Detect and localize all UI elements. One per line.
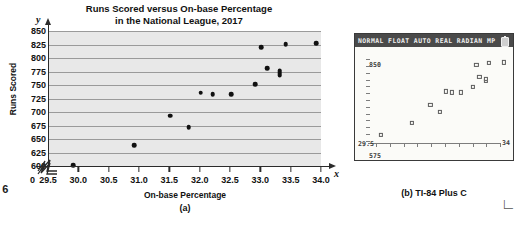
calculator-status-text: NORMAL FLOAT AUTO REAL RADIAN MP bbox=[358, 37, 496, 45]
data-point bbox=[265, 66, 270, 71]
calculator-y-tick bbox=[366, 134, 370, 135]
calculator-y-tick bbox=[366, 141, 370, 142]
y-tick-label: 825 bbox=[2, 40, 46, 50]
y-axis-title: Runs Scored bbox=[8, 53, 18, 125]
x-axis-line bbox=[36, 166, 330, 167]
calculator-data-point bbox=[502, 60, 506, 64]
calculator-screen: NORMAL FLOAT AUTO REAL RADIAN MP 850 29.… bbox=[354, 33, 514, 161]
page-corner-mark: ∟ bbox=[501, 196, 516, 213]
x-tick bbox=[169, 166, 170, 172]
calculator-status-bar: NORMAL FLOAT AUTO REAL RADIAN MP bbox=[355, 34, 513, 47]
calculator-data-point bbox=[477, 75, 481, 79]
gridline bbox=[49, 85, 321, 86]
data-point bbox=[132, 143, 137, 148]
calculator-data-canvas bbox=[369, 55, 507, 143]
y-tick-label: 625 bbox=[2, 148, 46, 158]
gridline bbox=[49, 126, 321, 127]
calculator-y-tick bbox=[366, 80, 370, 81]
data-point bbox=[168, 113, 173, 118]
calculator-data-point bbox=[483, 77, 487, 81]
calculator-data-point bbox=[474, 63, 478, 67]
data-point bbox=[314, 41, 319, 46]
gridline bbox=[49, 45, 321, 46]
calculator-x-axis bbox=[368, 143, 501, 144]
calculator-plot: 850 29.5 34 575 bbox=[355, 47, 513, 161]
y-axis-tick-labels: 600625650675700725750775800825850 bbox=[0, 0, 46, 231]
gridline bbox=[49, 112, 321, 113]
calculator-ymin-label: 575 bbox=[369, 152, 381, 160]
gridline bbox=[49, 31, 321, 32]
calculator-x-tick bbox=[376, 143, 377, 147]
chart-title-line1: Runs Scored versus On-base Percentage bbox=[54, 3, 304, 15]
calculator-data-point bbox=[410, 120, 414, 124]
gridline bbox=[49, 139, 321, 140]
panel-b-calculator: NORMAL FLOAT AUTO REAL RADIAN MP 850 29.… bbox=[349, 0, 521, 231]
calculator-x-tick bbox=[404, 143, 405, 147]
calculator-xmax-label: 34 bbox=[502, 139, 510, 147]
calculator-y-tick bbox=[366, 127, 370, 128]
calculator-x-tick bbox=[445, 143, 446, 147]
data-point bbox=[283, 42, 288, 47]
calculator-y-tick bbox=[366, 59, 370, 60]
y-tick-label: 850 bbox=[2, 26, 46, 36]
caption-b: (b) TI-84 Plus C bbox=[369, 188, 499, 198]
calculator-x-tick bbox=[390, 143, 391, 147]
calculator-y-tick bbox=[366, 114, 370, 115]
x-tick bbox=[138, 166, 139, 172]
gridline bbox=[49, 99, 321, 100]
data-point bbox=[253, 82, 258, 87]
calculator-x-tick bbox=[473, 143, 474, 147]
data-point bbox=[229, 92, 234, 97]
calculator-data-point bbox=[444, 89, 448, 93]
calculator-x-tick bbox=[486, 143, 487, 147]
gridline bbox=[49, 153, 321, 154]
data-point bbox=[198, 90, 203, 95]
calculator-data-point bbox=[379, 133, 383, 137]
data-point bbox=[186, 125, 191, 130]
data-point bbox=[277, 68, 282, 77]
x-tick bbox=[108, 166, 109, 172]
x-tick bbox=[229, 166, 230, 172]
calculator-y-tick bbox=[366, 100, 370, 101]
calculator-data-point bbox=[487, 61, 491, 65]
calculator-data-point bbox=[459, 90, 463, 94]
x-tick bbox=[199, 166, 200, 172]
caption-a: (a) bbox=[140, 203, 230, 213]
calculator-data-point bbox=[471, 85, 475, 89]
x-tick bbox=[320, 166, 321, 172]
calculator-data-point bbox=[437, 110, 441, 114]
panel-a-scatter-plot: Runs Scored versus On-base Percentage in… bbox=[0, 0, 345, 231]
data-point bbox=[259, 45, 264, 50]
x-tick bbox=[47, 166, 48, 172]
y-tick-label: 650 bbox=[2, 134, 46, 144]
calculator-y-tick bbox=[366, 66, 370, 67]
chart-title-line2: in the National League, 2017 bbox=[54, 15, 304, 27]
calculator-data-point bbox=[428, 103, 432, 107]
calculator-x-tick bbox=[500, 143, 501, 147]
calculator-x-tick bbox=[417, 143, 418, 147]
y-axis-line bbox=[48, 24, 49, 166]
battery-icon bbox=[501, 37, 509, 48]
x-tick bbox=[290, 166, 291, 172]
calculator-x-tick bbox=[431, 143, 432, 147]
x-tick-label: 34.0 bbox=[303, 175, 339, 185]
data-point bbox=[211, 92, 216, 97]
x-axis-title: On-base Percentage bbox=[110, 190, 260, 200]
calculator-y-tick bbox=[366, 73, 370, 74]
calculator-y-tick bbox=[366, 93, 370, 94]
x-tick bbox=[260, 166, 261, 172]
calculator-y-tick bbox=[366, 107, 370, 108]
plot-area bbox=[48, 31, 321, 166]
gridline bbox=[49, 58, 321, 59]
calculator-y-tick bbox=[366, 86, 370, 87]
chart-title: Runs Scored versus On-base Percentage in… bbox=[54, 3, 304, 27]
x-tick bbox=[78, 166, 79, 172]
calculator-data-point bbox=[450, 90, 454, 94]
calculator-ymax-label: 850 bbox=[369, 61, 381, 69]
calculator-y-tick bbox=[366, 120, 370, 121]
calculator-x-tick bbox=[459, 143, 460, 147]
